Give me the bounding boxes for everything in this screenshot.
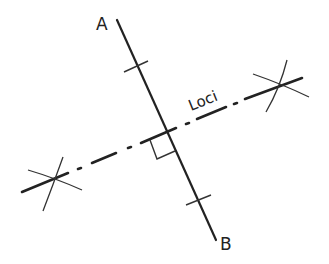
perpendicular-bisector-diagram: A B Loci [0,0,329,264]
point-b-label: B [220,234,232,254]
point-a-label: A [96,14,108,34]
segment-ab [117,20,216,240]
loci-line [22,78,302,192]
construction-arcs-left [28,157,82,211]
